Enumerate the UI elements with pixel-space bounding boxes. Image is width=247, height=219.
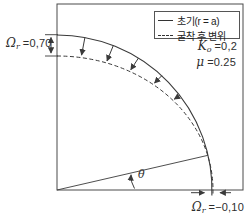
theta-angle-arrow bbox=[131, 175, 135, 189]
legend-label: 초기(r = a) bbox=[177, 13, 219, 28]
radial-displacement-arrow bbox=[155, 76, 162, 83]
radial-displacement-arrows bbox=[82, 38, 180, 100]
legend: 초기(r = a) 굴착 후 변위 bbox=[154, 11, 240, 39]
crown-displacement-label: Ωr=0,70 bbox=[6, 37, 52, 53]
figure-tunnel-displacement-diagram: 초기(r = a) 굴착 후 변위 Ko=0,2 μ=0.25 Ωr=0,70 … bbox=[0, 0, 247, 219]
mu-parameter-label: μ=0.25 bbox=[196, 56, 236, 68]
theta-label: θ bbox=[138, 168, 145, 181]
legend-item-initial: 초기(r = a) bbox=[158, 13, 236, 28]
initial-boundary-arc bbox=[57, 35, 212, 195]
dashed-line-sample bbox=[158, 35, 173, 36]
radial-displacement-arrow bbox=[174, 96, 180, 100]
radial-displacement-arrow bbox=[107, 46, 113, 62]
displaced-boundary-arc bbox=[57, 56, 213, 195]
radial-displacement-arrow bbox=[131, 58, 139, 70]
k0-parameter-label: Ko=0,2 bbox=[198, 40, 237, 56]
springline-displacement-label: Ωr=−0,10 bbox=[192, 201, 244, 217]
radial-displacement-arrow bbox=[82, 38, 85, 56]
solid-line-sample bbox=[158, 20, 173, 21]
